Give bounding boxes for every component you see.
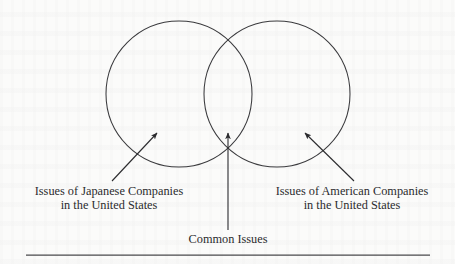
right-set-label: Issues of American Companies in the Unit… xyxy=(252,184,452,212)
right-set-label-line2: in the United States xyxy=(252,198,452,212)
left-set-label: Issues of Japanese Companies in the Unit… xyxy=(6,184,212,212)
right-set-label-line1: Issues of American Companies xyxy=(252,184,452,198)
scanned-page: Issues of Japanese Companies in the Unit… xyxy=(0,0,455,264)
left-circle xyxy=(106,21,252,167)
right-arrow xyxy=(305,133,354,181)
left-set-label-line1: Issues of Japanese Companies xyxy=(6,184,212,198)
intersection-label: Common Issues xyxy=(168,232,288,246)
left-arrow xyxy=(112,133,157,181)
venn-diagram-graphic xyxy=(0,0,455,264)
right-circle xyxy=(204,21,350,167)
left-set-label-line2: in the United States xyxy=(6,198,212,212)
intersection-label-line1: Common Issues xyxy=(168,232,288,246)
